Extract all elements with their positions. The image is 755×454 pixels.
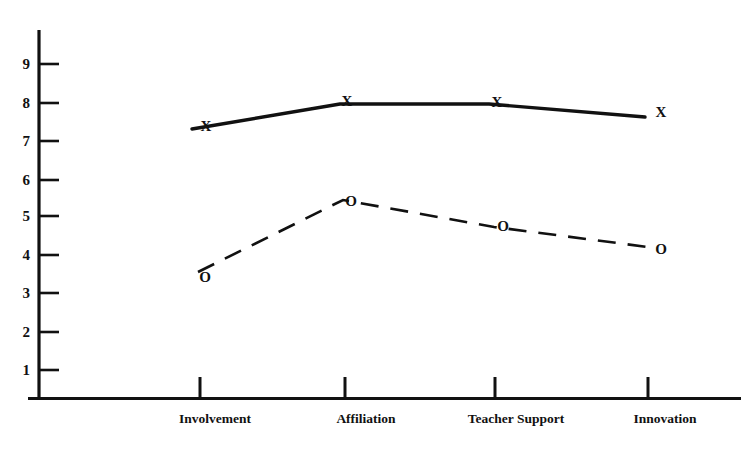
- chart-figure: 9 8 7 6 5 4 3 2 1 X X X X O O O O Involv…: [0, 0, 755, 454]
- series-o-marker-2: O: [497, 219, 509, 234]
- y-tick-label-1: 1: [12, 363, 30, 378]
- series-o-line: [198, 200, 648, 272]
- y-tick-label-6: 6: [12, 173, 30, 188]
- series-x-line: [192, 104, 645, 129]
- series-x-marker-1: X: [342, 94, 353, 109]
- x-tick-label-teacher-support: Teacher Support: [468, 412, 564, 426]
- series-o-marker-1: O: [345, 194, 357, 209]
- y-tick-label-3: 3: [12, 286, 30, 301]
- y-axis-ticks: [39, 64, 59, 370]
- chart-canvas: [0, 0, 755, 454]
- series-x-marker-0: X: [201, 119, 212, 134]
- x-axis-ticks: [200, 377, 648, 398]
- x-tick-label-affiliation: Affiliation: [336, 412, 395, 426]
- x-tick-label-involvement: Involvement: [179, 412, 251, 426]
- y-tick-label-2: 2: [12, 325, 30, 340]
- series-x-marker-3: X: [656, 105, 667, 120]
- y-tick-label-8: 8: [12, 96, 30, 111]
- series-o-marker-0: O: [199, 270, 211, 285]
- series-x-marker-2: X: [492, 95, 503, 110]
- series-o-marker-3: O: [655, 242, 667, 257]
- y-tick-label-7: 7: [12, 134, 30, 149]
- y-tick-label-5: 5: [12, 209, 30, 224]
- y-tick-label-4: 4: [12, 248, 30, 263]
- x-tick-label-innovation: Innovation: [633, 412, 696, 426]
- y-tick-label-9: 9: [12, 57, 30, 72]
